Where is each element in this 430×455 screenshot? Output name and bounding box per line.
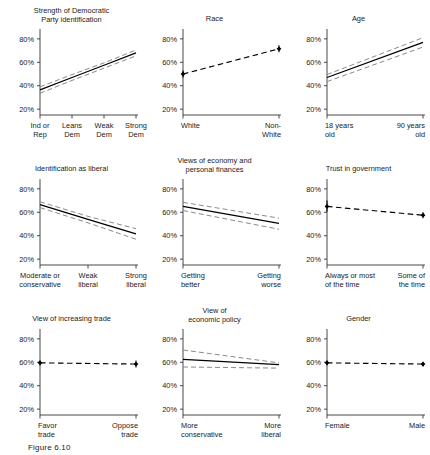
- y-tick-label: 80%: [162, 185, 177, 194]
- x-category-label: Weak: [95, 121, 114, 130]
- x-category-label: Non-: [265, 121, 282, 130]
- y-tick-label: 80%: [306, 185, 321, 194]
- y-tick-label: 40%: [19, 81, 34, 90]
- y-tick-label: 40%: [306, 231, 321, 240]
- estimate-line: [183, 359, 279, 364]
- confidence-interval-line: [183, 367, 279, 368]
- x-category-label: Getting: [181, 271, 205, 280]
- x-category-label: worse: [260, 280, 281, 289]
- figure-small-multiples: Strength of DemocraticParty identificati…: [0, 0, 430, 455]
- y-tick-label: 80%: [306, 335, 321, 344]
- confidence-interval-line: [327, 38, 423, 75]
- x-category-label: better: [181, 280, 200, 289]
- x-category-label: Ind or: [31, 121, 50, 130]
- y-tick-label: 20%: [162, 255, 177, 264]
- plot-area: 20%40%60%80%GettingbetterGettingworse: [143, 150, 286, 300]
- x-category-label: trade: [121, 430, 138, 439]
- y-tick-label: 60%: [306, 358, 321, 367]
- confidence-interval-line: [40, 208, 136, 240]
- y-tick-label: 20%: [19, 405, 34, 414]
- x-category-label: liberal: [261, 430, 281, 439]
- confidence-interval-line: [183, 350, 279, 363]
- panel-trust-in-government: Trust in government20%40%60%80%Always or…: [287, 150, 430, 300]
- y-tick-label: 60%: [19, 358, 34, 367]
- panel-identification-as-liberal: Identification as liberal20%40%60%80%Mod…: [0, 150, 143, 300]
- x-category-label: 18 years: [325, 121, 354, 130]
- confidence-interval-line: [40, 202, 136, 229]
- estimate-connector-line: [183, 49, 279, 74]
- y-tick-label: 40%: [19, 231, 34, 240]
- estimate-connector-line: [327, 206, 423, 215]
- x-category-label: Dem: [96, 130, 112, 139]
- x-category-label: Getting: [257, 271, 281, 280]
- y-tick-label: 60%: [306, 208, 321, 217]
- y-tick-label: 40%: [306, 81, 321, 90]
- panel-view-of-economic-policy: View ofeconomic policy20%40%60%80%Moreco…: [143, 300, 286, 450]
- y-tick-label: 40%: [162, 231, 177, 240]
- panel-age: Age20%40%60%80%18 yearsold90 yearsold: [287, 0, 430, 150]
- panel-race: Race20%40%60%80%WhiteNon-White: [143, 0, 286, 150]
- estimate-line: [40, 53, 136, 90]
- confidence-interval-line: [40, 50, 136, 87]
- point-estimate-marker: [421, 362, 426, 367]
- point-estimate-marker: [325, 204, 330, 209]
- confidence-interval-line: [327, 47, 423, 82]
- estimate-connector-line: [40, 363, 136, 364]
- x-category-label: More: [181, 421, 198, 430]
- plot-area: 20%40%60%80%FemaleMale: [287, 300, 430, 450]
- x-category-label: liberal: [78, 280, 98, 289]
- x-category-label: White: [181, 121, 200, 130]
- y-tick-label: 40%: [306, 381, 321, 390]
- x-category-label: Favor: [38, 421, 57, 430]
- y-tick-label: 60%: [162, 208, 177, 217]
- y-tick-label: 60%: [162, 358, 177, 367]
- panel-view-of-increasing-trade: View of increasing trade20%40%60%80%Favo…: [0, 300, 143, 450]
- point-estimate-marker: [181, 72, 186, 77]
- x-category-label: old: [415, 130, 425, 139]
- x-category-label: Weak: [79, 271, 98, 280]
- x-category-label: Dem: [64, 130, 80, 139]
- x-category-label: Dem: [128, 130, 144, 139]
- plot-area: 20%40%60%80%FavortradeOpposetrade: [0, 300, 143, 450]
- y-tick-label: 20%: [19, 105, 34, 114]
- estimate-line: [40, 205, 136, 234]
- x-category-label: of the time: [325, 280, 360, 289]
- x-category-label: Oppose: [112, 421, 138, 430]
- point-estimate-marker: [38, 360, 43, 365]
- y-tick-label: 80%: [19, 35, 34, 44]
- x-category-label: More: [264, 421, 281, 430]
- x-category-label: Male: [409, 421, 425, 430]
- x-category-label: Rep: [33, 130, 47, 139]
- y-tick-label: 20%: [162, 105, 177, 114]
- point-estimate-marker: [134, 362, 139, 367]
- confidence-interval-line: [183, 211, 279, 230]
- panel-strength-of-democratic-party-identification: Strength of DemocraticParty identificati…: [0, 0, 143, 150]
- y-tick-label: 60%: [162, 58, 177, 67]
- point-estimate-marker: [277, 46, 282, 51]
- y-tick-label: 80%: [162, 35, 177, 44]
- x-category-label: Always or most: [325, 271, 375, 280]
- y-tick-label: 80%: [19, 185, 34, 194]
- y-tick-label: 80%: [19, 335, 34, 344]
- y-tick-label: 20%: [306, 105, 321, 114]
- y-tick-label: 20%: [306, 255, 321, 264]
- panel-gender: Gender20%40%60%80%FemaleMale: [287, 300, 430, 450]
- y-tick-label: 40%: [162, 81, 177, 90]
- y-tick-label: 60%: [19, 208, 34, 217]
- y-tick-label: 80%: [306, 35, 321, 44]
- y-tick-label: 60%: [306, 58, 321, 67]
- y-tick-label: 20%: [306, 405, 321, 414]
- point-estimate-marker: [421, 213, 426, 218]
- confidence-interval-line: [183, 202, 279, 218]
- y-tick-label: 20%: [162, 405, 177, 414]
- y-tick-label: 40%: [19, 381, 34, 390]
- x-category-label: 90 years: [397, 121, 426, 130]
- figure-caption: Figure 6.10: [28, 443, 71, 452]
- y-tick-label: 20%: [19, 255, 34, 264]
- x-category-label: old: [325, 130, 335, 139]
- y-tick-label: 60%: [19, 58, 34, 67]
- plot-area: 20%40%60%80%Always or mostof the timeSom…: [287, 150, 430, 300]
- y-tick-label: 40%: [162, 381, 177, 390]
- confidence-interval-line: [40, 56, 136, 93]
- x-category-label: Leans: [62, 121, 82, 130]
